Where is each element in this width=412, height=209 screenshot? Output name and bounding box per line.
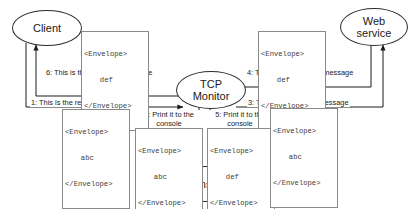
envelope-close-tag: </Envelope> [65,180,127,189]
envelope-body: def [84,76,146,85]
envelope-body: def [261,76,323,85]
node-tcp-monitor[interactable]: TCP Monitor [176,71,246,109]
envelope-open-tag: <Envelope> [210,147,272,156]
envelope-open-tag: <Envelope> [273,127,335,136]
node-tcp-monitor-label-line-2: Monitor [193,90,230,102]
envelope-body: abc [65,154,127,163]
envelope-box-step-2: <Envelope> abc </Envelope> [135,128,203,209]
node-web-service[interactable]: Web service [340,8,408,46]
node-web-service-label-line-1: Web [363,15,385,27]
diagram-canvas: Client TCP Monitor Web service Console 6… [0,0,412,209]
envelope-body: abc [273,153,335,162]
envelope-box-step-1: <Envelope> abc </Envelope> [62,109,130,209]
node-client-label: Client [33,22,61,34]
envelope-close-tag: </Envelope> [138,199,200,208]
envelope-box-step-5: <Envelope> def </Envelope> [207,128,275,209]
envelope-open-tag: <Envelope> [65,128,127,137]
envelope-close-tag: </Envelope> [210,199,272,208]
envelope-close-tag: </Envelope> [273,179,335,188]
envelope-body: abc [138,173,200,182]
envelope-body: def [210,173,272,182]
node-web-service-label-line-2: service [357,27,392,39]
envelope-open-tag: <Envelope> [138,147,200,156]
node-client[interactable]: Client [12,10,82,46]
envelope-box-step-3: <Envelope> abc </Envelope> [270,108,338,208]
envelope-open-tag: <Envelope> [261,50,323,59]
node-tcp-monitor-label-line-1: TCP [200,78,222,90]
envelope-open-tag: <Envelope> [84,50,146,59]
